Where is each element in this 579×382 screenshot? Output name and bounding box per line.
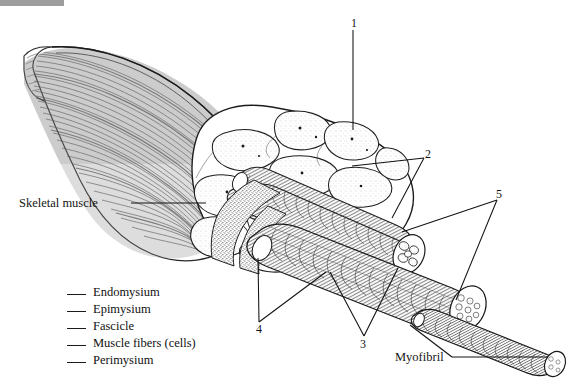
legend-item-epimysium: Epimysium xyxy=(67,302,151,317)
callout-number-3: 3 xyxy=(360,338,366,350)
legend-blank-line[interactable] xyxy=(67,345,86,346)
legend-blank-line[interactable] xyxy=(67,311,86,312)
callout-number-2: 2 xyxy=(425,148,431,160)
legend-item-muscle-fibers: Muscle fibers (cells) xyxy=(67,336,196,351)
legend-item-label: Fascicle xyxy=(93,319,134,334)
legend-blank-line[interactable] xyxy=(67,294,86,295)
legend-blank-line[interactable] xyxy=(67,328,86,329)
label-myofibril: Myofibril xyxy=(395,351,444,364)
legend-item-endomysium: Endomysium xyxy=(67,285,160,300)
leader-line-5a xyxy=(402,200,497,232)
legend-item-label: Epimysium xyxy=(93,302,151,317)
callout-number-1: 1 xyxy=(351,17,357,29)
legend-item-label: Perimysium xyxy=(93,353,153,368)
legend-item-label: Muscle fibers (cells) xyxy=(93,336,196,351)
scan-artifact-bar xyxy=(0,0,64,6)
leader-line-4b xyxy=(259,272,326,322)
legend-item-fascicle: Fascicle xyxy=(67,319,134,334)
label-skeletal-muscle: Skeletal muscle xyxy=(19,197,98,210)
legend-blank-line[interactable] xyxy=(67,362,86,363)
legend-item-label: Endomysium xyxy=(93,285,160,300)
legend-item-perimysium: Perimysium xyxy=(67,353,153,368)
figure-canvas: Skeletal muscle Myofibril 1 2 5 4 3 Endo… xyxy=(0,0,579,382)
callout-number-4: 4 xyxy=(256,323,262,335)
leader-line-5b xyxy=(456,200,497,300)
callout-number-5: 5 xyxy=(496,188,502,200)
